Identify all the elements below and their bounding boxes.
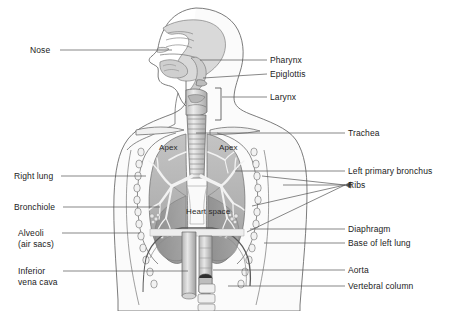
label-pharynx: Pharynx: [270, 55, 302, 66]
label-ribs: Ribs: [348, 180, 365, 191]
label-epiglottis: Epiglottis: [270, 69, 306, 80]
label-right-lung: Right lung: [14, 171, 53, 182]
label-apex-right: Apex: [159, 143, 178, 152]
vertebra: [198, 294, 215, 303]
label-vertebral-column: Vertebral column: [348, 281, 413, 292]
vertebra: [198, 304, 215, 311]
anatomy-figure: NoseRight lungBronchioleAlveoli (air sac…: [0, 0, 449, 311]
label-bronchiole: Bronchiole: [14, 202, 55, 213]
label-aorta: Aorta: [348, 265, 369, 276]
label-apex-left: Apex: [219, 143, 238, 152]
anatomy-illustration: [0, 0, 449, 311]
label-diaphragm: Diaphragm: [348, 224, 390, 235]
vertebral-column-group: [198, 284, 215, 311]
inferior-vena-cava: [182, 232, 196, 296]
label-larynx: Larynx: [270, 92, 296, 103]
trachea-tube: [187, 115, 206, 178]
label-inferior-vena-cava: Inferior vena cava: [18, 266, 58, 287]
diaphragm-band: [150, 229, 244, 236]
label-left-primary-bronchus: Left primary bronchus: [348, 166, 432, 177]
label-alveoli: Alveoli (air sacs): [18, 228, 54, 249]
vena-cava-lumen: [182, 293, 196, 299]
label-base-of-left-lung: Base of left lung: [348, 238, 411, 249]
label-nose: Nose: [30, 45, 50, 56]
label-heart-space: Heart space: [186, 207, 230, 216]
vertebra: [199, 284, 215, 293]
label-trachea: Trachea: [348, 128, 380, 139]
trachea-group: [187, 115, 206, 178]
